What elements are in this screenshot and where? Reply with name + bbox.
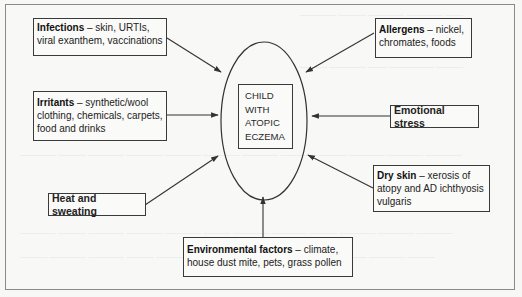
factor-box-allergens: Allergens – nickel, chromates, foods bbox=[375, 18, 472, 58]
center-line: ATOPIC bbox=[245, 116, 292, 130]
center-line: ECZEMA bbox=[245, 130, 292, 144]
factor-heading: Allergens bbox=[379, 24, 425, 35]
center-node-child-with-atopic-eczema: CHILD WITH ATOPIC ECZEMA bbox=[238, 84, 293, 149]
factor-separator: – bbox=[416, 170, 427, 181]
factor-heading: Heat and sweating bbox=[52, 192, 142, 218]
factor-heading: Irritants bbox=[37, 97, 74, 108]
factor-heading: Environmental factors bbox=[187, 244, 293, 255]
factor-box-heat-sweating: Heat and sweating bbox=[48, 193, 146, 216]
arrow-heat-sweating bbox=[145, 156, 218, 205]
center-line: CHILD bbox=[245, 89, 292, 103]
factor-heading: Infections bbox=[37, 22, 84, 33]
factor-separator: – bbox=[425, 24, 436, 35]
factor-box-emotional-stress: Emotional stress bbox=[390, 105, 479, 128]
factor-heading: Emotional stress bbox=[394, 104, 475, 130]
factor-box-dry-skin: Dry skin – xerosis of atopy and AD ichth… bbox=[373, 165, 490, 212]
arrow-infections bbox=[167, 38, 221, 72]
factor-box-irritants: Irritants – synthetic/wool clothing, che… bbox=[33, 91, 167, 141]
factor-box-infections: Infections – skin, URTIs, viral exanthem… bbox=[33, 18, 167, 56]
factor-box-environmental: Environmental factors – climate, house d… bbox=[183, 237, 353, 277]
factor-separator: – bbox=[84, 22, 95, 33]
arrow-allergens bbox=[306, 33, 374, 72]
factor-heading: Dry skin bbox=[377, 170, 416, 181]
center-line: WITH bbox=[245, 103, 292, 117]
factor-separator: – bbox=[74, 97, 85, 108]
factor-separator: – bbox=[293, 244, 304, 255]
arrow-dry-skin bbox=[308, 155, 373, 188]
